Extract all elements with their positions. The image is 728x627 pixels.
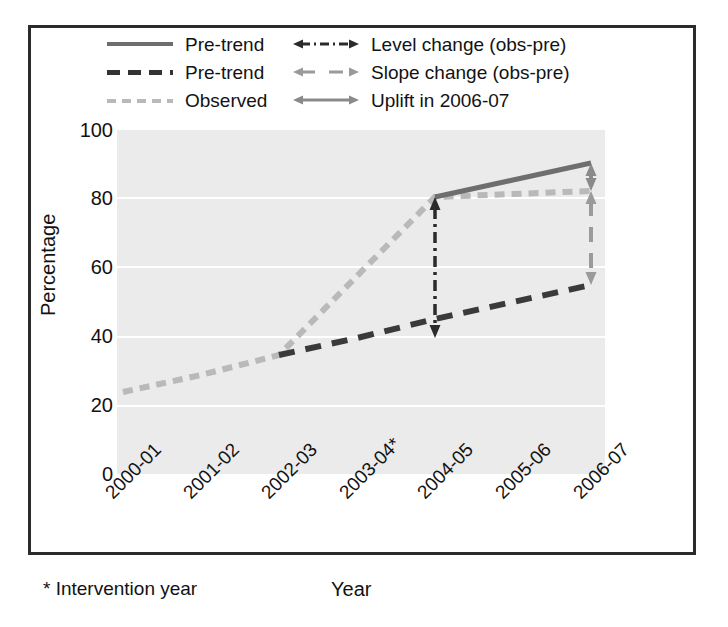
legend-item-uplift: Uplift in 2006-07	[289, 86, 689, 114]
chart-figure: Pre-trend Pre-trend Observed	[28, 25, 696, 555]
annotation-slope-change	[586, 191, 597, 285]
legend-column-right: Level change (obs-pre) Slope change (obs…	[289, 30, 689, 114]
dotted-line-sample	[103, 93, 177, 107]
legend-label: Slope change (obs-pre)	[371, 63, 570, 82]
legend-label: Level change (obs-pre)	[371, 35, 566, 54]
y-tick-label: 0	[53, 464, 113, 484]
legend-item-pre-trend-solid: Pre-trend	[103, 30, 303, 58]
y-tick-label: 20	[53, 395, 113, 415]
y-tick-label: 40	[53, 326, 113, 346]
plot-area: Percentage 100 80 60 40 20 0	[31, 116, 693, 552]
legend-item-observed: Observed	[103, 86, 303, 114]
legend-item-level-change: Level change (obs-pre)	[289, 30, 689, 58]
footnote: * Intervention year	[43, 578, 197, 600]
dash-dot-arrow-sample	[289, 37, 363, 51]
legend-label: Pre-trend	[185, 35, 264, 54]
plot-panel	[117, 128, 605, 476]
solid-line-sample	[103, 37, 177, 51]
dashed-line-sample	[103, 65, 177, 79]
y-tick-label: 60	[53, 257, 113, 277]
legend-label: Pre-trend	[185, 63, 264, 82]
legend-item-pre-trend-dashed: Pre-trend	[103, 58, 303, 86]
legend-item-slope-change: Slope change (obs-pre)	[289, 58, 689, 86]
series-canvas	[117, 128, 605, 476]
annotation-uplift	[586, 163, 597, 191]
x-axis-title: Year	[331, 578, 371, 601]
y-tick-label: 100	[53, 120, 113, 140]
y-axis-tick-labels: 100 80 60 40 20 0	[53, 116, 113, 476]
y-tick-label: 80	[53, 188, 113, 208]
series-observed	[123, 191, 591, 392]
chart-legend: Pre-trend Pre-trend Observed	[31, 30, 693, 118]
gray-arrow-sample	[289, 93, 363, 107]
light-dashed-arrow-sample	[289, 65, 363, 79]
legend-column-left: Pre-trend Pre-trend Observed	[103, 30, 303, 114]
legend-label: Observed	[185, 91, 267, 110]
legend-label: Uplift in 2006-07	[371, 91, 509, 110]
